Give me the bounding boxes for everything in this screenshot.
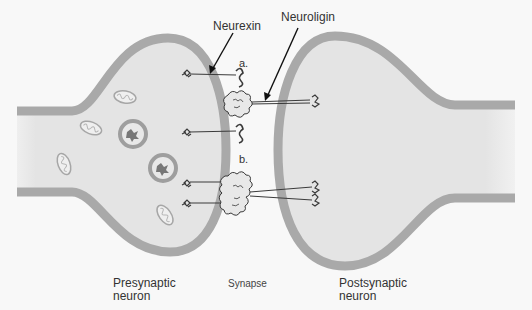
complex-a-label: a. [239, 58, 248, 70]
diagram-canvas [0, 0, 532, 310]
synapse-label: Synapse [228, 279, 267, 290]
postsynaptic-cytoplasm [278, 36, 515, 266]
presynaptic-neuron [0, 38, 226, 252]
presynaptic-neuron-label: Presynaptic neuron [113, 277, 176, 302]
neurexin-arrow [209, 33, 233, 74]
neuroligin-label: Neuroligin [281, 11, 335, 24]
complex-b-label: b. [239, 154, 248, 166]
presynaptic-cytoplasm [17, 38, 226, 252]
postsynaptic-neuron [278, 36, 532, 266]
neurexin-label: Neurexin [213, 20, 261, 33]
vesicle [120, 121, 146, 147]
synapse-diagram: Neurexin Neuroligin a. b. Presynaptic ne… [0, 0, 532, 310]
postsynaptic-neuron-label: Postsynaptic neuron [339, 277, 407, 302]
vesicle [150, 155, 176, 181]
